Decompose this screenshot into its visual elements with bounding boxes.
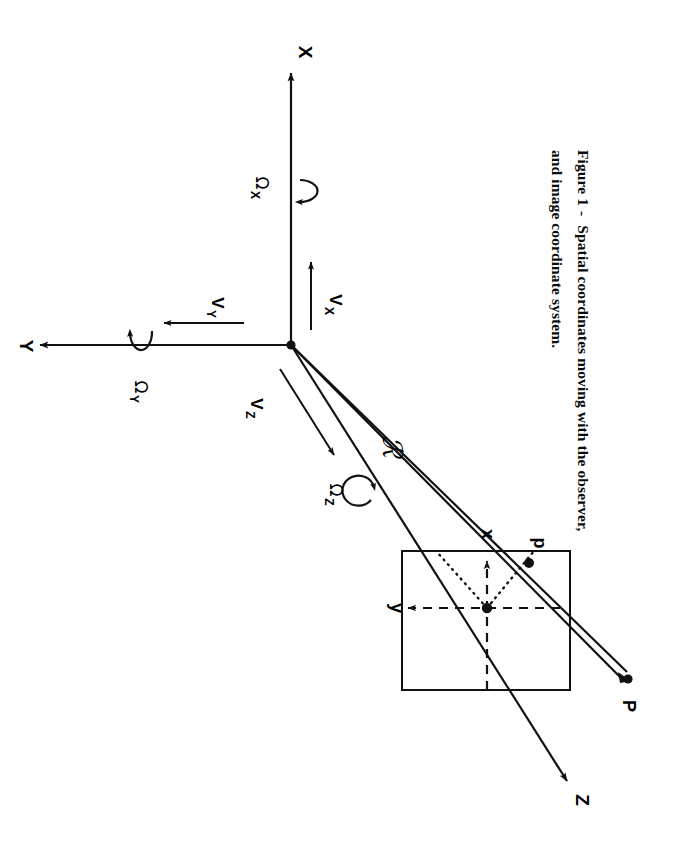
omega-z-symbol: Ω [326,484,346,497]
image-axis-y-label: y [387,603,407,613]
velocity-z-arrow [280,369,334,455]
omega-x-group: Ω X [248,177,318,203]
velocity-z-label-group: V Z [243,398,266,418]
omega-z-rotation-arrow [342,476,374,506]
velocity-z-subscript: Z [243,411,257,418]
figure-container: X Y Z V X V Y [0,0,689,857]
object-point-dot [623,674,632,683]
axis-y-label: Y [16,340,37,353]
figure-caption: Figure 1-Spatial coordinates moving with… [534,150,596,620]
caption-line-1: Spatial coordinates moving with the obse… [575,225,592,531]
omega-x-label-group: Ω X [248,177,272,200]
omega-y-label-group: Ω Y [127,381,151,404]
ray-label: ℛ [377,436,408,460]
omega-x-rotation-arrow [299,180,318,202]
object-point-group: P [618,672,639,712]
velocity-y-group: V Y [164,297,244,323]
caption-dash: - [575,211,592,216]
velocity-z-symbol: V [247,398,266,410]
omega-x-subscript: X [248,191,262,199]
image-plane-origin-dot [482,603,492,613]
image-point-dot [524,558,534,568]
axis-x-group: X [291,46,316,345]
axis-y-group: Y [16,340,291,353]
object-point-label: P [619,700,639,712]
dotted-construction-left [436,551,487,608]
velocity-x-label-group: V X [322,294,345,315]
axis-x-label: X [295,46,316,59]
caption-figure-number: Figure 1 [575,150,592,206]
velocity-y-symbol: V [208,297,227,309]
omega-y-subscript: Y [127,395,141,403]
velocity-z-group: V Z [243,369,334,455]
omega-y-symbol: Ω [131,381,151,394]
velocity-y-label-group: V Y [204,297,227,318]
axis-z-label: Z [572,794,593,806]
omega-z-group: Ω Z [322,476,374,506]
omega-z-subscript: Z [322,498,336,505]
velocity-x-group: V X [311,262,345,330]
omega-y-group: Ω Y [127,331,152,403]
omega-y-rotation-arrow [130,331,152,350]
omega-z-label-group: Ω Z [322,484,346,506]
velocity-y-subscript: Y [204,310,218,318]
caption-line-2: and image coordinate system. [544,150,570,620]
velocity-x-symbol: V [326,294,345,306]
velocity-x-subscript: X [322,307,336,315]
image-axis-x-label: x [478,529,498,539]
omega-x-symbol: Ω [252,177,272,190]
